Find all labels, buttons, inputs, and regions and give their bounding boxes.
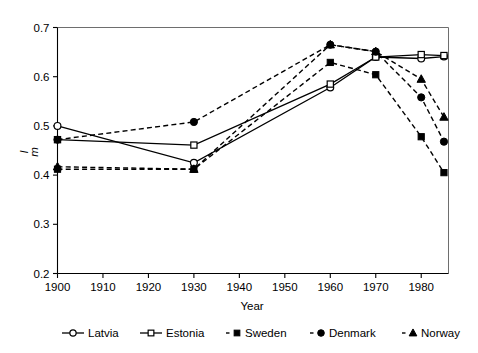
- x-tick-label: 1960: [317, 281, 343, 293]
- legend-label: Denmark: [329, 327, 376, 339]
- chart-container: 0.20.30.40.50.60.7 190019101920193019401…: [0, 0, 478, 353]
- data-point-marker: [441, 52, 447, 58]
- data-point-marker: [234, 330, 240, 336]
- data-point-marker: [148, 330, 154, 336]
- x-tick-label: 1930: [181, 281, 207, 293]
- x-axis-title: Year: [240, 300, 263, 312]
- data-point-marker: [70, 330, 76, 336]
- data-point-marker: [54, 136, 61, 143]
- x-tick-label: 1980: [408, 281, 434, 293]
- y-tick-label: 0.3: [34, 218, 50, 230]
- data-point-marker: [440, 138, 447, 145]
- x-tick-label: 1920: [136, 281, 162, 293]
- data-point-marker: [418, 94, 425, 101]
- y-axis-title-sub: m: [28, 147, 40, 157]
- data-point-marker: [54, 123, 61, 130]
- y-tick-label: 0.6: [34, 71, 50, 83]
- y-tick-label: 0.2: [34, 268, 50, 280]
- x-axis-ticks: 190019101920193019401950196019701980: [45, 274, 434, 293]
- y-tick-label: 0.7: [34, 22, 50, 34]
- data-point-marker: [190, 118, 197, 125]
- data-point-marker: [318, 330, 325, 337]
- legend-label: Latvia: [88, 327, 119, 339]
- data-point-marker: [191, 142, 197, 148]
- x-tick-label: 1910: [90, 281, 116, 293]
- y-tick-label: 0.4: [34, 169, 51, 181]
- x-tick-label: 1950: [272, 281, 298, 293]
- legend-label: Norway: [421, 327, 460, 339]
- legend-label: Estonia: [166, 327, 205, 339]
- data-point-marker: [327, 81, 333, 87]
- data-point-marker: [418, 51, 424, 57]
- data-point-marker: [373, 72, 379, 78]
- x-tick-label: 1940: [227, 281, 253, 293]
- data-point-marker: [327, 59, 333, 65]
- legend-label: Sweden: [245, 327, 287, 339]
- chart-background: [0, 0, 478, 353]
- x-tick-label: 1900: [45, 281, 71, 293]
- data-point-marker: [418, 134, 424, 140]
- x-tick-label: 1970: [363, 281, 389, 293]
- y-tick-label: 0.5: [34, 120, 50, 132]
- data-point-marker: [441, 170, 447, 176]
- line-chart: 0.20.30.40.50.60.7 190019101920193019401…: [0, 0, 478, 353]
